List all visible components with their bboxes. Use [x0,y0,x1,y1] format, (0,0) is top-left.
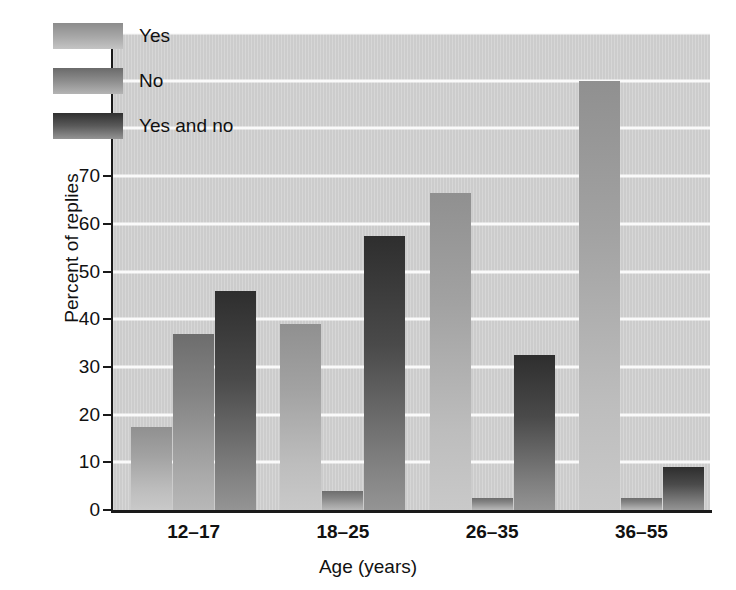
x-axis-tick-label: 12–17 [114,521,274,543]
legend-item: Yes [53,17,323,54]
y-axis-tick-label: 50 [40,261,100,283]
bar [621,498,662,510]
bar [430,193,471,510]
bar [173,334,214,510]
y-axis-tick-label: 0 [40,499,100,521]
bar [215,291,256,510]
legend-item: No [53,62,323,99]
gridline [113,270,710,273]
bar [472,498,513,510]
legend-label-yes-and-no: Yes and no [139,115,233,137]
y-axis-tick-label: 30 [40,356,100,378]
bar [579,81,620,510]
y-axis-tick-label: 10 [40,451,100,473]
bar-chart-figure: Percent of replies 010203040506070809010… [0,0,736,590]
bar [322,491,363,510]
bar [280,324,321,510]
legend: Yes No Yes and no [53,17,323,152]
y-axis-tick-label: 60 [40,213,100,235]
legend-swatch-yes [53,23,123,49]
bar [131,427,172,510]
legend-item: Yes and no [53,107,323,144]
x-axis-line [111,510,712,513]
legend-label-no: No [139,70,163,92]
x-axis-tick-label: 18–25 [263,521,423,543]
legend-swatch-no [53,68,123,94]
gridline [113,318,710,321]
legend-swatch-yes-and-no [53,113,123,139]
gridline [113,175,710,178]
x-axis-tick-label: 36–55 [561,521,721,543]
bar [663,467,704,510]
x-axis-title: Age (years) [0,556,736,578]
x-axis-tick-label: 26–35 [412,521,572,543]
legend-label-yes: Yes [139,25,170,47]
bar [364,236,405,510]
y-axis-tick-label: 20 [40,404,100,426]
gridline [113,222,710,225]
y-axis-tick-label: 40 [40,308,100,330]
bar [514,355,555,510]
y-axis-tick-label: 70 [40,165,100,187]
